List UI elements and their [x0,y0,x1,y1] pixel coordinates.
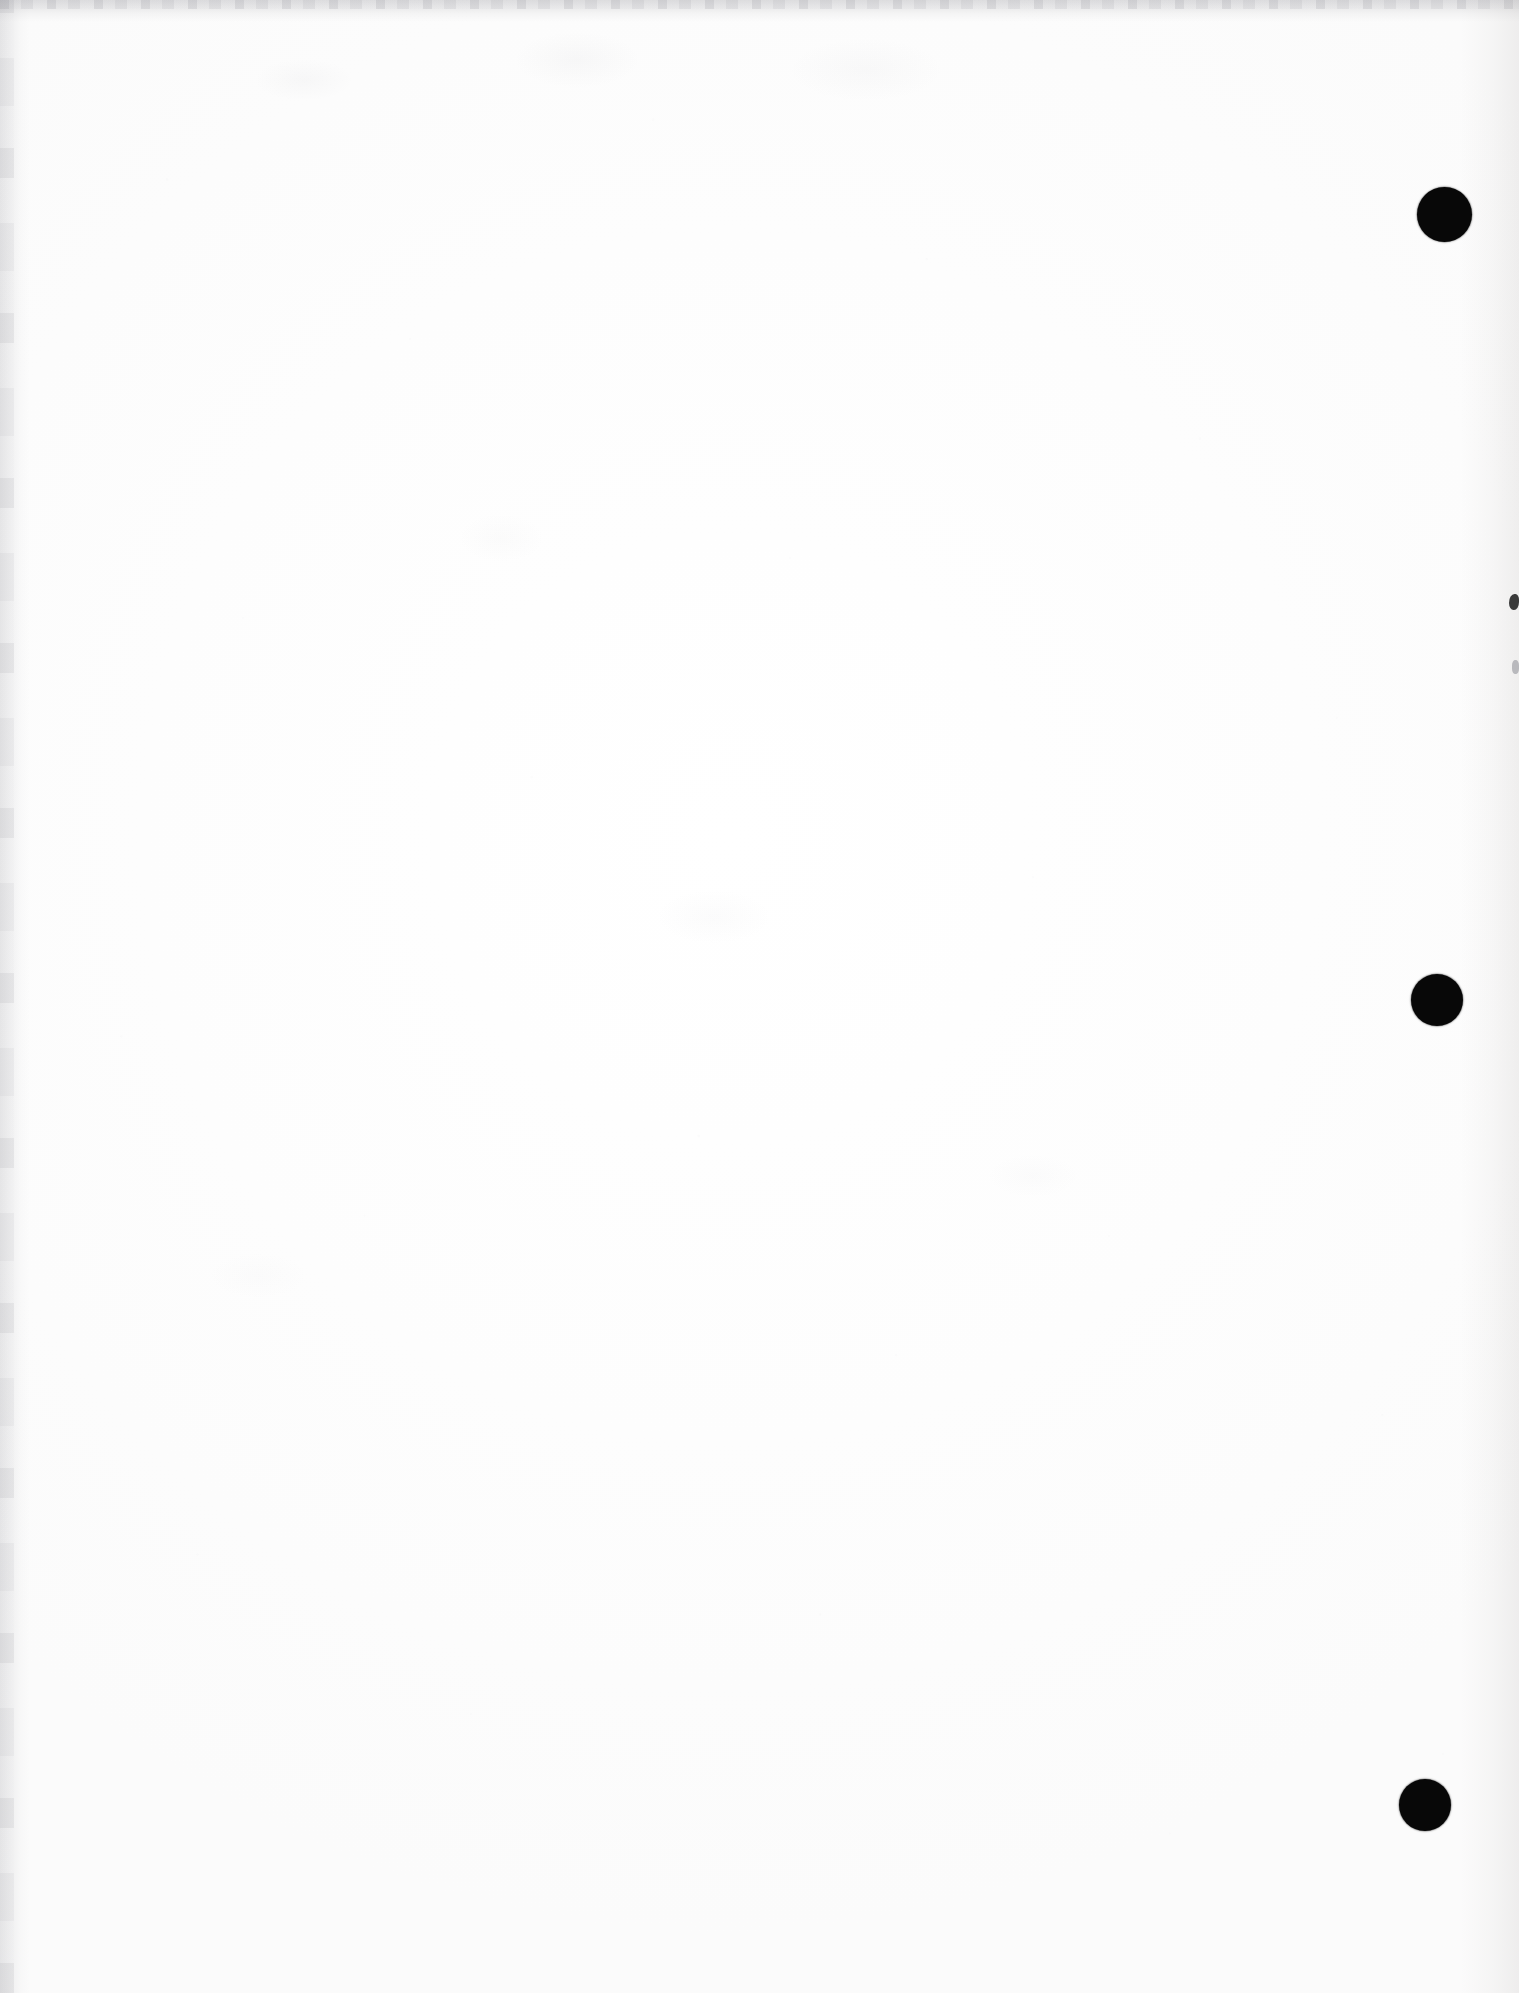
binder-hole-bottom [1399,1779,1451,1831]
right-edge-nick-lower [1512,660,1519,674]
paper-background [0,0,1519,1993]
binder-hole-middle [1411,974,1463,1026]
scan-edge-band-left [0,0,30,1993]
right-edge-nick-upper [1509,594,1519,610]
binder-hole-top [1417,187,1472,242]
scanned-page [0,0,1519,1993]
scan-edge-band-right [1461,0,1519,1993]
scan-edge-band-top [0,0,1519,22]
